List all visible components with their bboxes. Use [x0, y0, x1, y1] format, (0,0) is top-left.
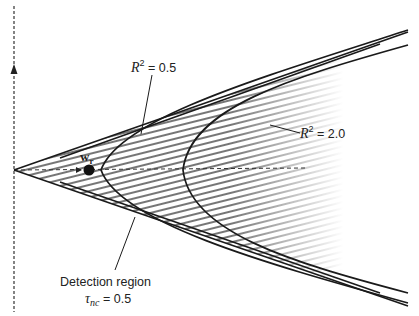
- threshold-label: τnc = 0.5: [85, 291, 131, 308]
- r2-2.0-label: R2 = 2.0: [299, 124, 345, 141]
- detection-region-label: Detection region: [60, 275, 151, 289]
- axis-arrow-up-icon: [11, 64, 18, 74]
- point-w-r-icon: [84, 165, 95, 176]
- r2-0.5-label: R2 = 0.5: [130, 58, 176, 75]
- detection-region-leader: [115, 217, 135, 270]
- vertical-axis: [11, 6, 18, 312]
- detection-region-diagram: wr R2 = 0.5 R2 = 2.0 Detection region τn…: [0, 0, 419, 316]
